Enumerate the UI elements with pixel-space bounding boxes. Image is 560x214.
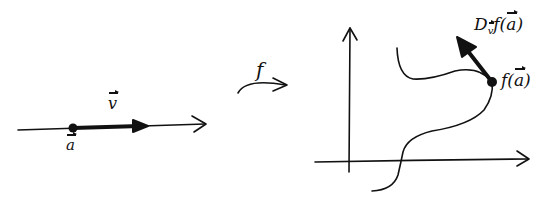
domain-line <box>18 116 206 132</box>
vector-v-label: v <box>108 96 117 112</box>
vector-v-arrow <box>73 120 148 132</box>
point-fa-dot <box>487 77 497 87</box>
mapping-label-f: f <box>256 60 263 80</box>
y-axis <box>343 28 357 172</box>
derivative-label: Dvf(a) <box>474 16 523 36</box>
image-curve <box>372 48 492 191</box>
derivative-vector-arrow <box>457 37 492 82</box>
point-fa-label: f(a) <box>501 72 531 89</box>
x-axis <box>315 151 529 166</box>
point-a-label: a <box>66 138 75 153</box>
